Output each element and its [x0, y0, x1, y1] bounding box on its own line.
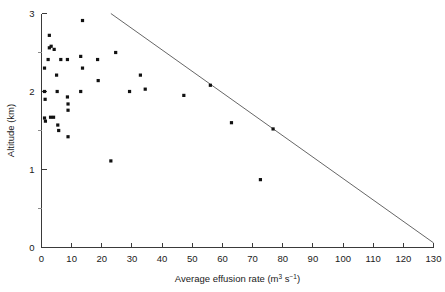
data-point-32	[144, 88, 147, 91]
y-tick-label-1: 1	[29, 164, 34, 175]
x-tick-label-50: 50	[187, 253, 198, 264]
data-point-5	[48, 34, 51, 37]
y-tick-label-2: 2	[29, 86, 34, 97]
x-tick-label-110: 110	[366, 253, 381, 264]
data-point-34	[209, 84, 212, 87]
x-tick-label-120: 120	[395, 253, 411, 264]
data-point-4	[44, 120, 47, 123]
data-point-12	[56, 90, 59, 93]
data-point-8	[47, 58, 50, 61]
data-point-21	[66, 135, 69, 138]
x-tick-label-10: 10	[66, 253, 77, 264]
data-point-33	[182, 94, 185, 97]
data-point-25	[79, 90, 82, 93]
data-point-20	[66, 109, 69, 112]
x-tick-label-40: 40	[157, 253, 168, 264]
scatter-plot-figure: 01020304050607080901001101201300123 Aver…	[0, 0, 445, 292]
y-axis-title: Altitude (km)	[5, 104, 16, 157]
y-tick-label-0: 0	[29, 242, 34, 253]
data-point-29	[114, 51, 117, 54]
x-tick-label-60: 60	[217, 253, 228, 264]
data-point-15	[56, 123, 59, 126]
plot-canvas: 01020304050607080901001101201300123 Aver…	[0, 0, 445, 292]
data-point-13	[55, 74, 58, 77]
data-point-9	[49, 116, 52, 119]
x-tick-label-30: 30	[127, 253, 138, 264]
data-point-0	[43, 67, 46, 70]
x-tick-label-0: 0	[39, 253, 44, 264]
data-point-36	[259, 178, 262, 181]
x-tick-label-70: 70	[247, 253, 258, 264]
x-tick-label-80: 80	[277, 253, 288, 264]
data-point-26	[96, 58, 99, 61]
axes-group: 01020304050607080901001101201300123	[29, 8, 441, 264]
data-point-30	[128, 90, 131, 93]
x-tick-label-20: 20	[97, 253, 108, 264]
x-tick-label-100: 100	[335, 253, 351, 264]
data-point-1	[43, 90, 46, 93]
data-point-3	[43, 116, 46, 119]
data-point-28	[109, 159, 112, 162]
y-tick-label-3: 3	[29, 8, 34, 19]
x-axis-title: Average effusion rate (m3 s−1)	[175, 273, 300, 285]
data-point-37	[271, 127, 274, 130]
data-point-31	[139, 74, 142, 77]
data-point-11	[53, 48, 56, 51]
x-tick-label-90: 90	[308, 253, 319, 264]
data-point-22	[81, 19, 84, 22]
data-point-35	[230, 121, 233, 124]
data-point-16	[57, 129, 60, 132]
data-point-27	[97, 79, 100, 82]
data-point-23	[79, 55, 82, 58]
data-point-17	[66, 58, 69, 61]
x-tick-label-130: 130	[426, 253, 442, 264]
data-point-7	[50, 45, 53, 48]
data-point-14	[59, 58, 62, 61]
data-point-2	[44, 98, 47, 101]
data-point-18	[66, 95, 69, 98]
data-point-19	[66, 102, 69, 105]
data-point-10	[52, 116, 55, 119]
data-points-group	[43, 19, 275, 181]
data-point-24	[81, 67, 84, 70]
